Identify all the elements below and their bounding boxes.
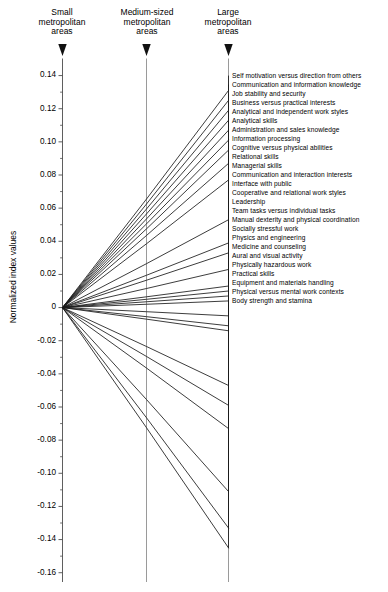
series-label: Analytical skills bbox=[232, 117, 277, 124]
y-axis-tick-labels: 0.140.120.100.080.060.040.020-0.02-0.04-… bbox=[18, 0, 56, 592]
series-label: Leadership bbox=[232, 198, 265, 205]
y-axis-tick-label: 0 bbox=[22, 302, 56, 311]
y-axis-tick-label: -0.02 bbox=[22, 336, 56, 345]
series-label: Equipment and materials handling bbox=[232, 279, 334, 286]
series-label: Practical skills bbox=[232, 270, 274, 277]
y-axis-tick-label: 0.14 bbox=[22, 70, 56, 79]
column-header-large: Large metropolitan areas bbox=[178, 8, 278, 37]
series-line bbox=[63, 85, 229, 308]
y-axis-tick-label: -0.04 bbox=[22, 369, 56, 378]
series-label: Managerial skills bbox=[232, 162, 282, 169]
series-label: Physically hazardous work bbox=[232, 261, 311, 268]
series-label: Communication and interaction interests bbox=[232, 171, 352, 178]
y-axis-tick-label: 0.02 bbox=[22, 269, 56, 278]
series-label: Job stability and security bbox=[232, 90, 306, 97]
y-axis-tick-label: 0.10 bbox=[22, 137, 56, 146]
series-label: Business versus practical interests bbox=[232, 99, 335, 106]
y-axis-tick-label: -0.12 bbox=[22, 501, 56, 510]
series-label: Information processing bbox=[232, 135, 300, 142]
arrow-icon-large bbox=[224, 44, 232, 56]
series-label: Body strength and stamina bbox=[232, 297, 312, 304]
series-line bbox=[63, 202, 229, 308]
series-label: Self motivation versus direction from ot… bbox=[232, 72, 361, 79]
series-line bbox=[63, 301, 229, 548]
y-axis-tick-label: -0.16 bbox=[22, 568, 56, 577]
series-line bbox=[63, 211, 229, 308]
slopegraph-chart: Small metropolitan areas Medium-sized me… bbox=[0, 0, 388, 592]
plot-area bbox=[0, 0, 388, 592]
series-label: Analytical and independent work styles bbox=[232, 108, 348, 115]
y-axis-tick-label: 0.04 bbox=[22, 236, 56, 245]
y-axis-tick-label: -0.14 bbox=[22, 534, 56, 543]
series-label: Medicine and counseling bbox=[232, 243, 306, 250]
series-label: Interface with public bbox=[232, 180, 292, 187]
series-label: Physics and engineering bbox=[232, 234, 305, 241]
series-line bbox=[63, 148, 229, 308]
series-line bbox=[63, 175, 229, 308]
y-axis-tick-label: 0.08 bbox=[22, 170, 56, 179]
series-label: Communication and information knowledge bbox=[232, 81, 361, 88]
series-line bbox=[63, 229, 229, 316]
y-axis-title: Normalized index values bbox=[8, 212, 18, 342]
y-axis-tick-label: -0.06 bbox=[22, 402, 56, 411]
arrow-icon-medium bbox=[142, 44, 150, 56]
series-label: Physical versus mental work contexts bbox=[232, 288, 344, 295]
series-label: Cooperative and relational work styles bbox=[232, 189, 346, 196]
column-header-large-line3: areas bbox=[178, 27, 278, 37]
series-label: Socially stressful work bbox=[232, 225, 298, 232]
series-label: Relational skills bbox=[232, 153, 279, 160]
series-label: Aural and visual activity bbox=[232, 252, 303, 259]
y-axis-tick-label: -0.08 bbox=[22, 435, 56, 444]
series-label: Administration and sales knowledge bbox=[232, 126, 339, 133]
y-axis-tick-label: 0.06 bbox=[22, 203, 56, 212]
series-label: Team tasks versus individual tasks bbox=[232, 207, 335, 214]
series-line bbox=[63, 157, 229, 308]
series-label: Manual dexterity and physical coordinati… bbox=[232, 216, 359, 223]
series-label: Cognitive versus physical abilities bbox=[232, 144, 333, 151]
arrow-icon-small bbox=[58, 44, 66, 56]
series-line bbox=[63, 76, 229, 308]
y-axis-tick-label: 0.12 bbox=[22, 104, 56, 113]
y-axis-tick-label: -0.10 bbox=[22, 468, 56, 477]
